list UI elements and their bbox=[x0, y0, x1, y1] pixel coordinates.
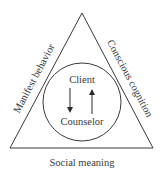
client-label: Client bbox=[69, 74, 95, 85]
triangle-diagram: Manifest behavior Conscious cognition So… bbox=[0, 0, 164, 174]
bottom-side-label: Social meaning bbox=[49, 157, 115, 168]
counselor-label: Counselor bbox=[60, 116, 104, 127]
right-side-label: Conscious cognition bbox=[105, 38, 155, 120]
